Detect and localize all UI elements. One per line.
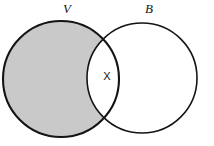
venn-diagram: V B X (0, 0, 214, 146)
set-label-b: B (145, 1, 153, 16)
region-label-x: X (103, 70, 111, 82)
venn-diagram-canvas: V B X (0, 0, 214, 146)
